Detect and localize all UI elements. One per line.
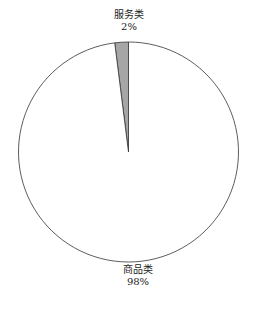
label-service-percent: 2% [104, 21, 154, 33]
label-goods: 商品类 98% [113, 264, 163, 288]
pie-slice-1 [18, 42, 238, 262]
label-goods-percent: 98% [113, 276, 163, 288]
label-goods-name: 商品类 [113, 264, 163, 276]
pie-chart [0, 0, 254, 309]
label-service: 服务类 2% [104, 9, 154, 33]
pie-slices [18, 42, 238, 262]
label-service-name: 服务类 [104, 9, 154, 21]
